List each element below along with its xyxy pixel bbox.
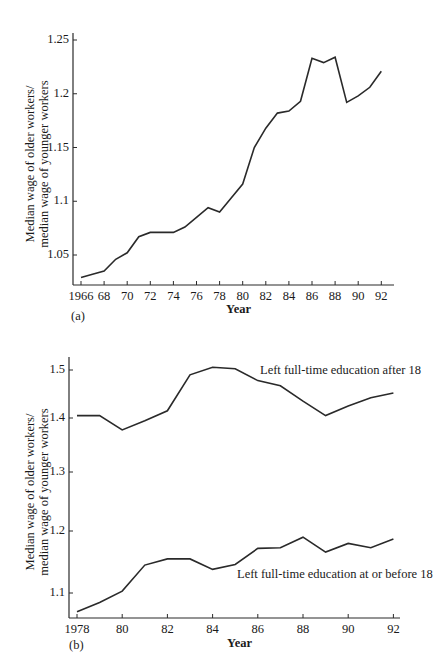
x-tick-label: 86 (238, 622, 278, 637)
annotation-lower-series: Left full-time education at or before 18 (237, 567, 433, 582)
x-tick-label: 90 (328, 622, 368, 637)
y-tick-label: 1.5 (25, 362, 65, 377)
y-tick-label: 1.4 (25, 410, 65, 425)
chart-b-x-axis-title: Year (227, 636, 252, 651)
x-tick-label: 92 (373, 622, 413, 637)
y-tick-label: 1.3 (25, 464, 65, 479)
x-tick-label: 88 (283, 622, 323, 637)
x-tick-label: 84 (193, 622, 233, 637)
annotation-upper-series: Left full-time education after 18 (260, 363, 421, 378)
x-tick-label: 80 (102, 622, 142, 637)
x-tick-label: 82 (147, 622, 187, 637)
y-tick-label: 1.1 (25, 585, 65, 600)
y-tick-label: 1.2 (25, 523, 65, 538)
x-tick-label: 1978 (57, 622, 97, 637)
chart-b-panel-label: (b) (69, 638, 84, 653)
